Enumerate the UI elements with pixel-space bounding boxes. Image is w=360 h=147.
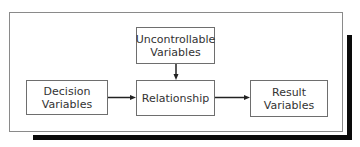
- arrow-decision-to-relationship: [108, 95, 136, 100]
- arrow-uncontrollable-to-relationship: [174, 64, 179, 80]
- connector-arrows: [0, 0, 360, 147]
- arrow-relationship-to-result: [215, 95, 250, 100]
